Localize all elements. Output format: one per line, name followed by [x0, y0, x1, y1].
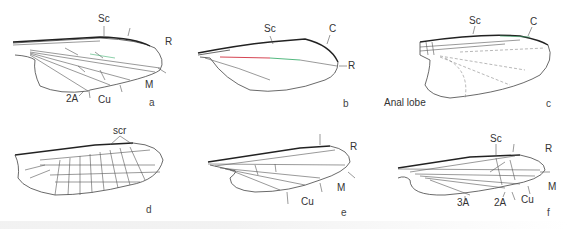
panel-letter-f: f	[547, 207, 550, 218]
costal-margin-a	[13, 37, 150, 46]
label-r: R	[348, 60, 355, 71]
label-2a: 2A	[66, 93, 79, 104]
label-m: M	[548, 181, 556, 192]
label-2a: 2A	[494, 197, 507, 208]
arrow-m-e	[348, 172, 355, 178]
label-sc: Sc	[98, 13, 110, 24]
label-m: M	[145, 79, 153, 90]
panel-letter-e: e	[341, 207, 347, 218]
label-c: C	[329, 23, 336, 34]
costal-margin-f	[398, 155, 520, 168]
panel-letter-a: a	[149, 97, 155, 108]
label-r: R	[545, 143, 552, 154]
red-vein-b	[220, 57, 270, 58]
vein-e	[208, 150, 345, 190]
wing-outline-c	[420, 42, 550, 98]
arrow-r-a	[128, 28, 130, 36]
label-cu: Cu	[301, 196, 314, 207]
wing-outline-b	[198, 50, 338, 91]
dashed-vein-c	[440, 48, 545, 98]
leader-sc-f	[496, 144, 550, 172]
vein-r-b	[205, 58, 337, 80]
label-anal-lobe: Anal lobe	[384, 97, 426, 108]
label-cu: Cu	[98, 94, 111, 105]
vein-f	[398, 156, 540, 195]
wing-panel-f: Sc R M Cu 2A 3A f	[398, 133, 556, 218]
leader-sc-c	[473, 26, 532, 36]
wing-panel-d: scr d	[15, 125, 163, 215]
crossveins-d	[25, 147, 160, 195]
wing-venation-figure: Sc R M Cu 2A a Sc C R b Sc C Anal lobe c	[0, 0, 567, 229]
wing-panel-a: Sc R M Cu 2A a	[13, 13, 172, 108]
label-c: C	[530, 16, 537, 27]
costal-margin-e	[208, 146, 330, 162]
vein-a	[13, 41, 160, 91]
label-r: R	[165, 36, 172, 47]
wing-panel-e: R M Cu e	[208, 134, 357, 218]
panel-letter-c: c	[546, 98, 551, 109]
wing-panel-c: Sc C Anal lobe c	[384, 15, 551, 109]
label-cu: Cu	[521, 194, 534, 205]
label-3a: 3A	[457, 197, 470, 208]
label-sc: Sc	[469, 15, 481, 26]
label-sc: Sc	[264, 23, 276, 34]
vein-c	[420, 40, 520, 55]
panel-letter-b: b	[343, 98, 349, 109]
label-sc: Sc	[490, 133, 502, 144]
label-scr: scr	[113, 125, 127, 136]
label-m: M	[337, 182, 345, 193]
figure-caption-cutoff	[0, 221, 567, 229]
wing-panel-b: Sc C R b	[198, 23, 355, 109]
panel-letter-d: d	[146, 204, 152, 215]
arrow-cu-a	[120, 85, 122, 92]
costal-margin-b	[198, 39, 338, 62]
label-r: R	[350, 141, 357, 152]
green-vein-b	[270, 58, 300, 60]
